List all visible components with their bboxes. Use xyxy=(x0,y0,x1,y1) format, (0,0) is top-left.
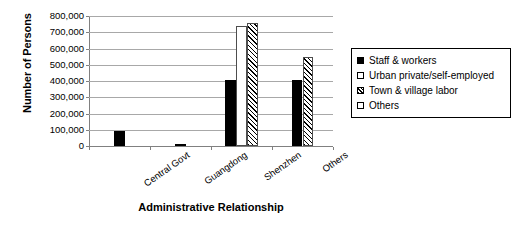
legend-label: Urban private/self-employed xyxy=(369,70,494,81)
x-axis-title: Administrative Relationship xyxy=(89,201,333,213)
legend-label: Town & village labor xyxy=(369,85,458,96)
plot-area xyxy=(89,16,333,146)
y-axis-tickmark xyxy=(86,130,89,131)
y-axis-tick-label: 500,000 xyxy=(50,60,84,70)
gridline xyxy=(89,32,333,33)
y-axis-tick-label: 400,000 xyxy=(50,76,84,86)
y-axis-tick-label: 100,000 xyxy=(50,125,84,135)
legend-item: Town & village labor xyxy=(357,83,505,97)
x-axis-tickmark xyxy=(333,147,334,150)
y-axis-tick-label: 300,000 xyxy=(50,92,84,102)
legend-item: Others xyxy=(357,98,505,112)
legend-swatch-open-icon xyxy=(357,72,364,79)
bar xyxy=(303,57,314,146)
bar xyxy=(247,23,258,146)
y-axis-tickmark xyxy=(86,97,89,98)
y-axis-tickmark xyxy=(86,65,89,66)
legend-item: Urban private/self-employed xyxy=(357,68,505,82)
legend-swatch-solid-icon xyxy=(357,57,364,64)
y-axis-tick-label: 700,000 xyxy=(50,27,84,37)
x-axis-tick-label: Guangdong xyxy=(201,149,248,187)
y-axis-tick-label: 200,000 xyxy=(50,109,84,119)
x-axis-tick-label: Shenzhen xyxy=(261,149,302,183)
bar xyxy=(225,80,236,146)
y-axis-tickmark xyxy=(86,49,89,50)
y-axis-tick-label: 0 xyxy=(79,141,84,151)
legend-swatch-hatch-icon xyxy=(357,87,364,94)
bar xyxy=(114,131,125,146)
legend-label: Others xyxy=(369,100,399,111)
y-axis-tick-labels: 0100,000200,000300,000400,000500,000600,… xyxy=(36,10,88,146)
y-axis-tickmark xyxy=(86,16,89,17)
x-axis-tick-labels: Central GovtGuangdongShenzhenOthers xyxy=(89,149,333,193)
y-axis-title: Number of Persons xyxy=(21,0,33,138)
gridline xyxy=(89,65,333,66)
bar xyxy=(236,26,247,146)
x-axis-tick-label: Central Govt xyxy=(141,149,191,189)
bar xyxy=(292,80,303,146)
y-axis-tickmark xyxy=(86,32,89,33)
bar-chart: Number of Persons 0100,000200,000300,000… xyxy=(0,0,520,229)
legend-item: Staff & workers xyxy=(357,53,505,67)
bar xyxy=(175,144,186,146)
gridline xyxy=(89,16,333,17)
y-axis-tick-label: 800,000 xyxy=(50,11,84,21)
gridline xyxy=(89,49,333,50)
chart-legend: Staff & workersUrban private/self-employ… xyxy=(351,48,511,118)
x-axis-tick-label: Others xyxy=(320,149,350,174)
legend-label: Staff & workers xyxy=(369,55,437,66)
y-axis-tickmark xyxy=(86,81,89,82)
y-axis-tick-label: 600,000 xyxy=(50,44,84,54)
y-axis-tickmark xyxy=(86,114,89,115)
legend-swatch-open-icon xyxy=(357,102,364,109)
